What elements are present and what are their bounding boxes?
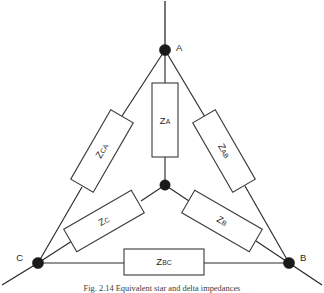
component-ZC[interactable]: ZC [64, 190, 145, 252]
node-dot-A[interactable] [159, 44, 170, 55]
node-dot-C[interactable] [32, 257, 43, 268]
terminal-lead-B [289, 263, 322, 285]
circuit-diagram: ZA ZAB ZCA ZB ZC [0, 0, 324, 293]
component-ZCA[interactable]: ZCA [71, 110, 134, 192]
component-ZAB[interactable]: ZAB [193, 110, 256, 192]
terminal-label-B: B [300, 252, 306, 263]
terminal-label-C: C [16, 252, 23, 263]
circuit-canvas: ZA ZAB ZCA ZB ZC [0, 0, 324, 293]
terminal-label-A: A [176, 42, 183, 53]
component-ZB[interactable]: ZB [182, 190, 263, 252]
component-ZBC[interactable]: ZBC [124, 249, 204, 275]
wire-ZC-to-C [38, 241, 72, 263]
figure-caption-clip: Fig. 2.14 Equivalent star and delta impe… [0, 284, 324, 293]
wire-ZB-to-B [256, 241, 289, 263]
node-dot-B[interactable] [283, 257, 294, 268]
terminal-lead-C [2, 263, 38, 285]
component-ZA[interactable]: ZA [152, 83, 178, 157]
node-dot-neutral[interactable] [160, 180, 170, 190]
figure-caption: Fig. 2.14 Equivalent star and delta impe… [0, 284, 324, 293]
